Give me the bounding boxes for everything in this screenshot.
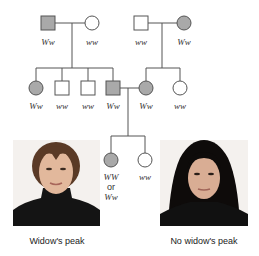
gen2-6-genotype: ww bbox=[174, 102, 186, 111]
gen1-right-father-square bbox=[134, 16, 148, 30]
gen2-son-3-square bbox=[81, 81, 95, 95]
gen3-2-genotype: ww bbox=[139, 173, 151, 182]
caption-widows-peak: Widow's peak bbox=[29, 236, 84, 246]
gen1-right-father-genotype: ww bbox=[135, 38, 147, 47]
gen3-daughter-1-circle bbox=[104, 153, 118, 167]
gen2-4-genotype: Ww bbox=[106, 102, 120, 111]
gen1-right-mother-circle bbox=[177, 16, 191, 30]
photo-widows-peak bbox=[13, 140, 100, 226]
gen2-son-2-square bbox=[55, 81, 69, 95]
gen2-daughter-6-circle bbox=[173, 81, 187, 95]
gen1-right-mother-genotype: Ww bbox=[177, 38, 191, 47]
gen2-daughter-5-circle bbox=[139, 81, 153, 95]
gen3-1-genotype-ww-caps: WW bbox=[104, 173, 119, 182]
gen1-left-mother-circle bbox=[85, 16, 99, 30]
gen1-left-father-genotype: Ww bbox=[41, 38, 55, 47]
gen2-son-4-square bbox=[106, 81, 120, 95]
gen2-2-genotype: ww bbox=[56, 102, 68, 111]
photo-no-widows-peak bbox=[160, 140, 248, 226]
gen3-1-genotype-ww-het: Ww bbox=[104, 193, 118, 202]
gen2-1-genotype: Ww bbox=[29, 102, 43, 111]
gen3-daughter-2-circle bbox=[138, 153, 152, 167]
pedigree-diagram: Ww ww ww Ww Ww ww ww Ww Ww ww WW or Ww w… bbox=[0, 0, 259, 256]
gen2-daughter-1-circle bbox=[29, 81, 43, 95]
caption-no-widows-peak: No widow's peak bbox=[170, 236, 237, 246]
gen1-left-father-square bbox=[41, 16, 55, 30]
gen2-3-genotype: ww bbox=[82, 102, 94, 111]
gen3-1-genotype-or: or bbox=[107, 183, 115, 192]
gen1-left-mother-genotype: ww bbox=[86, 38, 98, 47]
gen2-5-genotype: Ww bbox=[139, 102, 153, 111]
